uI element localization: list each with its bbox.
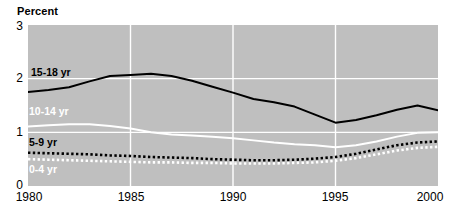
x-axis-tick-1995: 1995 bbox=[305, 190, 365, 204]
y-axis-tick-1: 1 bbox=[5, 125, 23, 139]
y-axis-tick-3: 3 bbox=[5, 19, 23, 33]
percent-line-chart: Percent 3 2 1 0 1980 1985 1990 1995 2000… bbox=[0, 0, 459, 212]
y-axis-title: Percent bbox=[17, 5, 58, 17]
plot-area bbox=[28, 25, 438, 186]
x-axis-tick-1990: 1990 bbox=[203, 190, 263, 204]
series-label-10-14-yr: 10-14 yr bbox=[29, 105, 69, 117]
series-label-5-9-yr: 5-9 yr bbox=[29, 136, 57, 148]
x-axis-tick-1980: 1980 bbox=[0, 190, 59, 204]
x-axis-tick-1985: 1985 bbox=[101, 190, 161, 204]
y-axis-tick-2: 2 bbox=[5, 71, 23, 85]
plot-svg bbox=[28, 25, 438, 186]
series-label-15-18-yr: 15-18 yr bbox=[31, 66, 71, 78]
series-label-0-4-yr: 0-4 yr bbox=[29, 163, 57, 175]
x-axis-tick-2000: 2000 bbox=[400, 190, 459, 204]
